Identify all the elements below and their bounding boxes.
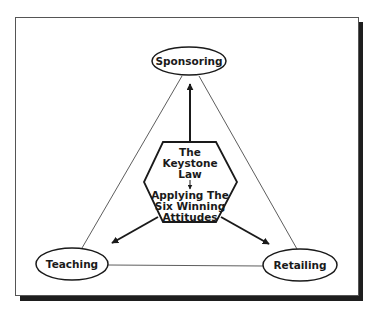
node-sponsoring: Sponsoring xyxy=(152,47,226,75)
keystone-law-diagram: The Keystone Law Applying The Six Winnin… xyxy=(0,0,376,315)
center-line-3: Law xyxy=(178,168,202,180)
node-teaching: Teaching xyxy=(36,248,108,280)
node-retailing-label: Retailing xyxy=(273,259,326,271)
node-retailing: Retailing xyxy=(263,249,337,281)
node-sponsoring-label: Sponsoring xyxy=(156,55,223,67)
center-line-6: Attitudes xyxy=(162,211,217,223)
node-teaching-label: Teaching xyxy=(46,258,98,270)
